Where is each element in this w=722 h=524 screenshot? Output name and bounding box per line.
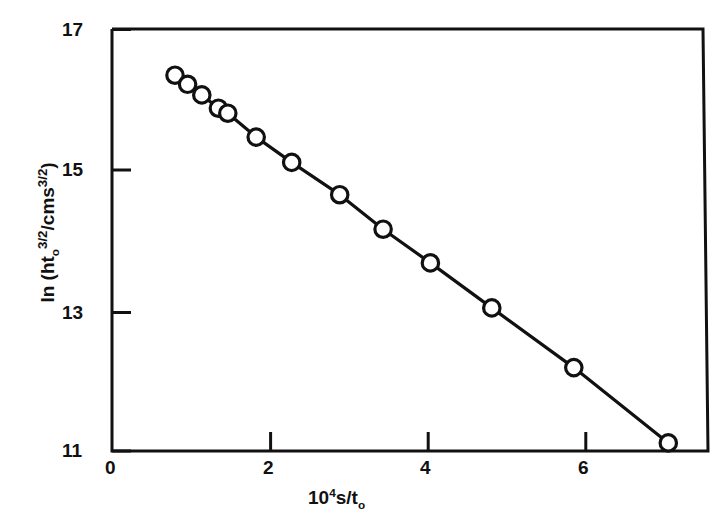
y-axis-title-close-paren: )	[37, 162, 58, 168]
data-point	[660, 435, 676, 451]
x-axis-title-mantissa: 10	[308, 487, 329, 508]
x-axis-title-sub: o	[358, 498, 365, 511]
y-tick-label-17: 17	[62, 20, 83, 39]
chart-figure: 17 15 13 11 0 2 4 6 104s/to ln (hto3/2/c…	[0, 0, 722, 524]
x-tick-label-2: 2	[263, 458, 274, 477]
y-tick-label-13: 13	[62, 303, 83, 322]
y-axis-title-exponent-2: 3/2	[35, 169, 50, 188]
x-tick-label-6: 6	[578, 458, 589, 477]
y-axis-title: ln (hto3/2/cms3/2)	[36, 112, 61, 352]
y-axis-title-open-paren: (	[37, 274, 58, 280]
x-axis-title-rest: s/	[336, 487, 352, 508]
data-point	[248, 129, 264, 145]
data-point	[332, 187, 348, 203]
plot-area	[0, 0, 722, 524]
data-point	[220, 105, 236, 121]
y-axis-title-cms: cms	[37, 187, 58, 225]
x-tick-label-0: 0	[105, 458, 116, 477]
y-axis-title-t-sub: o	[48, 249, 61, 256]
y-tick-label-15: 15	[62, 160, 83, 179]
data-point	[194, 87, 210, 103]
y-axis-title-t: t	[37, 256, 58, 262]
y-axis-title-slash: /	[37, 225, 58, 230]
y-tick-label-11: 11	[62, 441, 82, 460]
data-point	[284, 154, 300, 170]
x-tick-label-4: 4	[420, 458, 431, 477]
x-axis-title: 104s/to	[308, 487, 365, 511]
data-point	[422, 255, 438, 271]
data-point	[484, 300, 500, 316]
data-point	[566, 359, 582, 375]
data-point	[375, 221, 391, 237]
y-axis-title-exponent-1: 3/2	[35, 230, 50, 249]
chart-background	[0, 0, 722, 524]
y-axis-title-h: h	[37, 262, 58, 274]
y-axis-title-ln: ln	[37, 286, 58, 303]
